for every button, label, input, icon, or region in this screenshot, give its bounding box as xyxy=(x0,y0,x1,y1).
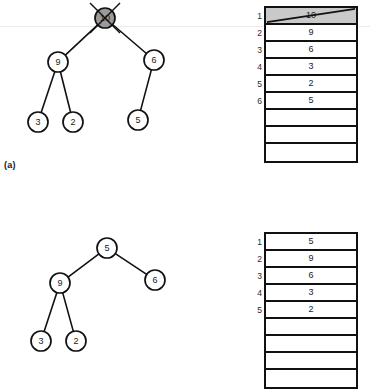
array-cell[interactable] xyxy=(266,370,356,387)
tree-node[interactable]: 3 xyxy=(28,112,48,132)
tree-edge xyxy=(115,254,146,275)
array-cell-value: 9 xyxy=(308,28,313,37)
tree-edge xyxy=(68,254,99,277)
array-index-label: 4 xyxy=(257,62,262,71)
array-cell[interactable]: 52 xyxy=(266,302,356,319)
array-cell-value: 2 xyxy=(308,305,313,314)
tree-node[interactable]: 9 xyxy=(48,52,68,72)
tree-node-label: 5 xyxy=(104,243,109,253)
tree-node[interactable]: 2 xyxy=(63,112,83,132)
tree-node-label: 9 xyxy=(55,57,60,67)
tree-node[interactable]: 6 xyxy=(144,50,164,70)
tree-node[interactable]: 10 xyxy=(90,3,120,33)
array-cell[interactable] xyxy=(266,144,356,161)
tree-node[interactable]: 6 xyxy=(145,270,165,290)
array-index-label: 3 xyxy=(257,45,262,54)
panel-a-label: (a) xyxy=(4,160,16,170)
tree-node[interactable]: 5 xyxy=(128,110,148,130)
tree-edge xyxy=(63,293,74,332)
tree-node-label: 2 xyxy=(70,117,75,127)
tree-edge xyxy=(113,25,147,54)
array-cell-value: 5 xyxy=(308,237,313,246)
array-index-label: 1 xyxy=(257,237,262,246)
array-cell-value: 10 xyxy=(306,11,316,20)
figure-panel-a: 1096325 (a) 1102936435265 xyxy=(0,0,370,190)
figure-panel-b: 59632 1529364352 xyxy=(0,190,370,378)
tree-node-label: 2 xyxy=(73,336,78,346)
array-cell-value: 6 xyxy=(308,45,313,54)
binary-tree-before: 1096325 xyxy=(0,0,240,150)
array-cell[interactable]: 15 xyxy=(266,234,356,251)
tree-node-label: 9 xyxy=(57,278,62,288)
array-cell-value: 5 xyxy=(308,96,313,105)
array-cell[interactable]: 36 xyxy=(266,42,356,59)
array-index-label: 3 xyxy=(257,271,262,280)
array-cell[interactable] xyxy=(266,336,356,353)
tree-node-label: 3 xyxy=(35,117,40,127)
array-cell[interactable] xyxy=(266,353,356,370)
tree-node-label: 3 xyxy=(38,336,43,346)
array-cell-value: 2 xyxy=(308,79,313,88)
tree-edge xyxy=(44,293,57,332)
heap-array-after: 1529364352 xyxy=(264,232,358,389)
array-cell-value: 3 xyxy=(308,62,313,71)
array-cell[interactable] xyxy=(266,319,356,336)
tree-node-label: 5 xyxy=(135,115,140,125)
tree-node[interactable]: 3 xyxy=(31,331,51,351)
array-index-label: 2 xyxy=(257,254,262,263)
array-index-label: 1 xyxy=(257,11,262,20)
array-cell[interactable]: 36 xyxy=(266,268,356,285)
array-cell[interactable]: 29 xyxy=(266,25,356,42)
array-cell[interactable]: 43 xyxy=(266,59,356,76)
tree-node[interactable]: 2 xyxy=(66,331,86,351)
tree-node-label: 6 xyxy=(152,275,157,285)
array-cell-value: 3 xyxy=(308,288,313,297)
array-cell[interactable] xyxy=(266,110,356,127)
tree-node[interactable]: 5 xyxy=(97,238,117,258)
array-cell[interactable]: 52 xyxy=(266,76,356,93)
array-cell-value: 6 xyxy=(308,271,313,280)
heap-array-before: 1102936435265 xyxy=(264,6,358,163)
array-index-label: 5 xyxy=(257,79,262,88)
tree-edge xyxy=(141,70,152,111)
array-index-label: 5 xyxy=(257,305,262,314)
tree-node-label: 6 xyxy=(151,55,156,65)
array-index-label: 4 xyxy=(257,288,262,297)
array-cell-value: 9 xyxy=(308,254,313,263)
array-index-label: 2 xyxy=(257,28,262,37)
array-index-label: 6 xyxy=(257,96,262,105)
array-cell[interactable]: 43 xyxy=(266,285,356,302)
array-cell[interactable]: 29 xyxy=(266,251,356,268)
tree-edge xyxy=(41,71,55,112)
tree-node[interactable]: 9 xyxy=(50,273,70,293)
binary-tree-after: 59632 xyxy=(0,190,240,378)
array-cell[interactable] xyxy=(266,127,356,144)
tree-edge xyxy=(60,72,70,113)
array-cell[interactable]: 65 xyxy=(266,93,356,110)
array-cell[interactable]: 110 xyxy=(266,8,356,25)
